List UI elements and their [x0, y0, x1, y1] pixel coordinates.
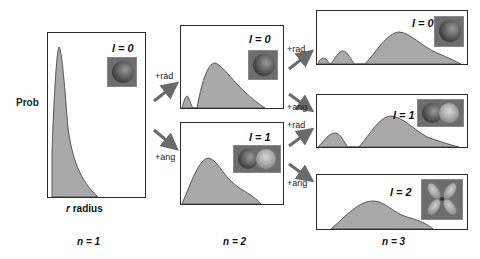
column-label-n3: n = 3 — [382, 236, 405, 247]
arrow-label-rad: +rad — [155, 71, 173, 81]
column-label-n2: n = 2 — [223, 236, 246, 247]
arrow-label-rad: +rad — [287, 120, 305, 130]
arrow-label-ang: +ang — [287, 178, 307, 188]
arrow-label-rad: +rad — [287, 44, 305, 54]
arrow-label-ang: +ang — [287, 102, 307, 112]
column-label-n1: n = 1 — [77, 236, 100, 247]
arrow-label-ang: +ang — [155, 152, 175, 162]
transition-arrows — [0, 0, 480, 259]
